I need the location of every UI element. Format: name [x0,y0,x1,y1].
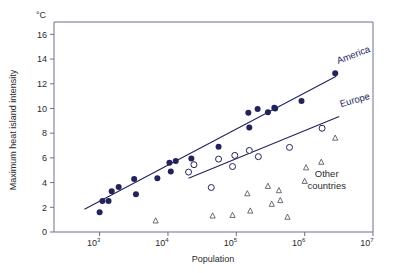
x-tick-label: 103 [87,237,101,248]
data-point-other-countries [304,165,309,170]
y-axis-ticks: 0246810121416 [37,30,54,238]
y-axis-title: Maximum heat island intensity [8,69,18,190]
annotation-other: Other [315,168,339,179]
y-tick-label: 16 [37,30,47,40]
data-point-other-countries [333,135,338,140]
data-point-america [246,125,252,131]
data-point-europe [232,152,238,158]
data-point-europe [186,169,192,175]
data-point-europe [216,156,222,162]
data-point-europe [230,164,236,170]
data-point-other-countries [278,197,283,202]
data-point-america [272,105,278,111]
data-point-europe [319,125,325,131]
data-point-america [168,168,174,174]
data-point-america [116,184,122,190]
data-point-europe [246,147,252,153]
x-tick-label: 104 [155,237,169,248]
x-axis-title: Population [192,254,235,264]
data-point-america [133,191,139,197]
y-tick-label: 12 [37,79,47,89]
data-point-america [265,109,271,115]
y-tick-label: 8 [42,128,47,138]
data-point-other-countries [265,183,270,188]
x-tick-label: 106 [292,237,306,248]
data-point-america [99,198,105,204]
data-point-america [299,98,305,104]
data-point-other-countries [210,213,215,218]
y-tick-label: 0 [42,227,47,237]
unit-label: °C [36,10,47,20]
data-point-europe [286,144,292,150]
data-point-america [106,198,112,204]
data-point-america [245,110,251,116]
x-axis-ticks: 103104105106107 [87,232,374,248]
series-other-countries-markers [153,135,338,223]
series-america-markers [97,70,339,215]
data-point-america [97,209,103,215]
annotation-countries: countries [307,180,346,191]
data-point-america [188,156,194,162]
x-tick-label: 107 [360,237,374,248]
series-annotations: AmericaEuropeOthercountries [307,43,372,192]
y-tick-label: 2 [42,203,47,213]
data-point-other-countries [319,159,324,164]
data-point-other-countries [285,214,290,219]
annotation-europe: Europe [338,90,370,109]
data-point-america [255,106,261,112]
data-point-other-countries [248,208,253,213]
data-point-europe [255,154,261,160]
heat-island-chart: 103104105106107 0246810121416 AmericaEur… [0,0,393,273]
data-point-america [166,160,172,166]
data-point-europe [191,162,197,168]
y-tick-label: 14 [37,54,47,64]
data-point-other-countries [276,188,281,193]
series-europe-markers [186,125,326,190]
data-point-america [216,144,222,150]
y-tick-label: 6 [42,153,47,163]
x-tick-label: 105 [224,237,238,248]
data-point-america [109,188,115,194]
data-point-other-countries [245,191,250,196]
data-point-america [131,176,137,182]
data-point-europe [208,185,214,191]
data-point-other-countries [153,218,158,223]
chart-canvas: 103104105106107 0246810121416 AmericaEur… [0,0,393,273]
annotation-america: America [335,43,372,66]
y-tick-label: 4 [42,178,47,188]
data-point-other-countries [230,212,235,217]
y-tick-label: 10 [37,104,47,114]
data-point-america [332,70,338,76]
data-point-other-countries [269,201,274,206]
data-point-america [154,175,160,181]
data-point-america [173,158,179,164]
